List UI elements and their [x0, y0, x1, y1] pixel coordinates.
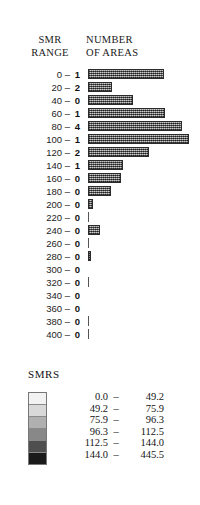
legend-range-low: 112.5	[70, 437, 108, 449]
row-count-label: 0	[72, 186, 83, 197]
legend-range-high: 112.5	[124, 426, 164, 438]
legend-title: SMRS	[28, 368, 60, 380]
row-count-label: 2	[72, 147, 83, 158]
legend-range-row: 49.2–75.9	[52, 403, 182, 415]
row-range-label: 100 –	[18, 134, 70, 145]
row-bar-track	[88, 108, 196, 118]
histogram-rows: 0 –120 –240 –060 –180 –4100 –1120 –2140 …	[0, 68, 200, 341]
row-bar-track	[88, 69, 196, 79]
histogram-row: 280 –0	[0, 250, 200, 263]
row-bar-track	[88, 134, 196, 144]
row-bar-track	[88, 225, 196, 235]
histogram-row: 20 –2	[0, 81, 200, 94]
histogram-bar	[88, 134, 189, 144]
row-count-label: 0	[72, 329, 83, 340]
histogram-row: 0 –1	[0, 68, 200, 81]
row-range-label: 0 –	[18, 69, 70, 80]
legend-swatch	[29, 429, 46, 441]
histogram-bar	[88, 95, 133, 105]
row-bar-track	[88, 329, 196, 339]
legend-range-high: 75.9	[124, 403, 164, 415]
histogram-row: 120 –2	[0, 146, 200, 159]
row-bar-track	[88, 147, 196, 157]
legend-range-dash: –	[108, 426, 124, 438]
histogram-row: 240 –0	[0, 224, 200, 237]
histogram-bar	[88, 238, 89, 248]
histogram-bar	[88, 316, 89, 326]
row-range-label: 340 –	[18, 290, 70, 301]
histogram-row: 400 –0	[0, 328, 200, 341]
row-bar-track	[88, 95, 196, 105]
histogram-row: 300 –0	[0, 263, 200, 276]
histogram-row: 260 –0	[0, 237, 200, 250]
legend-swatch	[29, 405, 46, 417]
histogram-row: 40 –0	[0, 94, 200, 107]
histogram-row: 160 –0	[0, 172, 200, 185]
legend-range-row: 144.0–445.5	[52, 449, 182, 461]
histogram-bar	[88, 329, 89, 339]
legend-range-low: 96.3	[70, 426, 108, 438]
row-count-label: 1	[72, 69, 83, 80]
row-range-label: 80 –	[18, 121, 70, 132]
row-bar-track	[88, 121, 196, 131]
histogram-bar	[88, 186, 111, 196]
row-count-label: 0	[72, 95, 83, 106]
row-bar-track	[88, 303, 196, 313]
row-count-label: 0	[72, 173, 83, 184]
legend-range-row: 75.9–96.3	[52, 414, 182, 426]
row-range-label: 120 –	[18, 147, 70, 158]
number-of-areas-header-line2: OF AREAS	[86, 47, 178, 60]
histogram-row: 200 –0	[0, 198, 200, 211]
legend-range-row: 96.3–112.5	[52, 426, 182, 438]
histogram-row: 60 –1	[0, 107, 200, 120]
row-count-label: 0	[72, 238, 83, 249]
legend-label-column: 0.0–49.249.2–75.975.9–96.396.3–112.5112.…	[52, 391, 182, 460]
row-range-label: 400 –	[18, 329, 70, 340]
legend-range-high: 144.0	[124, 437, 164, 449]
legend-range-dash: –	[108, 391, 124, 403]
row-count-label: 0	[72, 316, 83, 327]
histogram-bar	[88, 251, 91, 261]
row-count-label: 1	[72, 160, 83, 171]
legend-range-high: 445.5	[124, 449, 164, 461]
number-of-areas-header: NUMBER OF AREAS	[86, 34, 178, 59]
row-bar-track	[88, 264, 196, 274]
row-count-label: 0	[72, 212, 83, 223]
legend-range-row: 112.5–144.0	[52, 437, 182, 449]
row-bar-track	[88, 277, 196, 287]
histogram-row: 180 –0	[0, 185, 200, 198]
smr-range-header-line2: RANGE	[22, 47, 78, 60]
legend-range-low: 49.2	[70, 403, 108, 415]
row-range-label: 260 –	[18, 238, 70, 249]
histogram-row: 80 –4	[0, 120, 200, 133]
legend-range-dash: –	[108, 414, 124, 426]
smr-histogram-figure: SMR RANGE NUMBER OF AREAS 0 –120 –240 –0…	[0, 0, 200, 505]
row-range-label: 160 –	[18, 173, 70, 184]
histogram-row: 220 –0	[0, 211, 200, 224]
histogram-bar	[88, 225, 100, 235]
histogram-row: 140 –1	[0, 159, 200, 172]
histogram-bar	[88, 212, 89, 222]
smr-range-header: SMR RANGE	[22, 34, 78, 59]
legend-swatch	[29, 453, 46, 464]
histogram-bar	[88, 173, 121, 183]
row-range-label: 140 –	[18, 160, 70, 171]
histogram-row: 360 –0	[0, 302, 200, 315]
histogram-bar	[88, 69, 164, 79]
row-count-label: 4	[72, 121, 83, 132]
legend-range-low: 0.0	[70, 391, 108, 403]
legend-range-dash: –	[108, 437, 124, 449]
row-count-label: 0	[72, 277, 83, 288]
row-count-label: 0	[72, 264, 83, 275]
legend-swatch-column	[28, 392, 47, 465]
column-headers: SMR RANGE NUMBER OF AREAS	[0, 34, 200, 64]
row-count-label: 0	[72, 290, 83, 301]
row-count-label: 1	[72, 134, 83, 145]
legend-range-low: 75.9	[70, 414, 108, 426]
histogram-row: 340 –0	[0, 289, 200, 302]
row-range-label: 200 –	[18, 199, 70, 210]
histogram-bar	[88, 199, 93, 209]
row-range-label: 280 –	[18, 251, 70, 262]
row-range-label: 320 –	[18, 277, 70, 288]
row-bar-track	[88, 212, 196, 222]
